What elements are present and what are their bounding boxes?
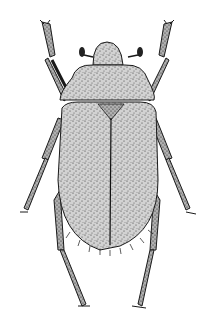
elytra — [58, 102, 158, 250]
beetle-head — [79, 42, 143, 65]
illustration-canvas — [0, 0, 214, 321]
pronotum — [60, 65, 154, 100]
beetle-illustration — [0, 0, 214, 321]
